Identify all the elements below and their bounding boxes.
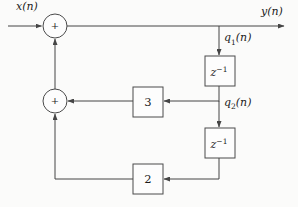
q1-signal-label: q1(n) (224, 31, 252, 47)
gain-block-3-label: 3 (144, 95, 151, 109)
plus-icon-top: + (51, 20, 59, 31)
delay2-to-gain2-arrow (164, 158, 219, 179)
input-signal-label: x(n) (16, 0, 38, 13)
diagram-nodes: + + z−1 3 z−1 2 (43, 14, 235, 194)
signal-flow-diagram: + + z−1 3 z−1 2 x(n) y(n) q1(n) q2(n) (0, 0, 298, 207)
output-signal-label: y(n) (260, 5, 283, 18)
gain2-to-adder2-arrow (55, 114, 133, 179)
gain-block-2-label: 2 (144, 172, 151, 186)
plus-icon-bottom: + (51, 95, 59, 106)
q2-signal-label: q2(n) (224, 96, 252, 112)
